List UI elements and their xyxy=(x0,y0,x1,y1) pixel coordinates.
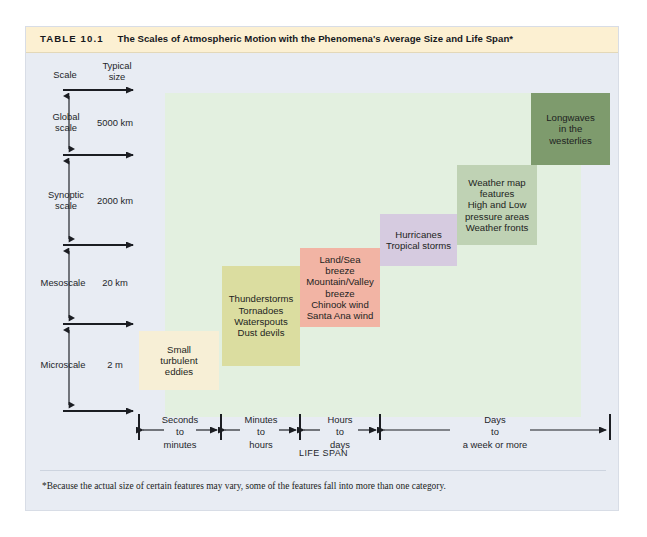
table-title-band: TABLE 10.1The Scales of Atmospheric Moti… xyxy=(26,27,618,53)
lifespan-band-hours-to-days: Hours to days xyxy=(302,414,378,451)
lifespan-band-seconds-to-minutes: Seconds to minutes xyxy=(141,414,219,451)
axis-row-size-microscale: 2 m xyxy=(86,360,144,371)
phenomenon-box-small-turbulent-eddies[interactable]: Small turbulent eddies xyxy=(139,331,219,390)
phenomenon-box-hurricanes[interactable]: Hurricanes Tropical storms xyxy=(380,214,457,266)
axis-row-size-mesoscale: 20 km xyxy=(86,278,144,289)
phenomenon-box-longwaves[interactable]: Longwaves in the westerlies xyxy=(531,93,610,165)
table-title: TABLE 10.1The Scales of Atmospheric Moti… xyxy=(40,33,513,44)
table-footnote: *Because the actual size of certain feat… xyxy=(42,481,582,491)
axis-row-size-synoptic-scale: 2000 km xyxy=(86,196,144,207)
axis-header-typical-size: Typical size xyxy=(86,61,148,83)
phenomenon-box-weather-map-features[interactable]: Weather map features High and Low pressu… xyxy=(457,165,537,245)
phenomenon-box-land-sea-breeze[interactable]: Land/Sea breeze Mountain/Valley breeze C… xyxy=(300,248,380,327)
axis-row-size-global-scale: 5000 km xyxy=(86,118,144,129)
table-number: TABLE 10.1 xyxy=(40,33,104,44)
table-caption: The Scales of Atmospheric Motion with th… xyxy=(118,33,514,44)
lifespan-axis-title: LIFE SPAN xyxy=(0,448,647,458)
lifespan-band-days-to-a-week-or-more: Days to a week or more xyxy=(420,414,570,451)
footnote-divider xyxy=(40,470,606,471)
lifespan-band-minutes-to-hours: Minutes to hours xyxy=(223,414,299,451)
phenomenon-box-thunderstorms[interactable]: Thunderstorms Tornadoes Waterspouts Dust… xyxy=(222,266,300,366)
table-figure-page: TABLE 10.1The Scales of Atmospheric Moti… xyxy=(0,0,647,537)
